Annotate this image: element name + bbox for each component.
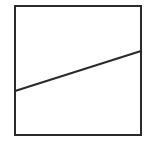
diagonal-line: [15, 51, 141, 91]
diagram: [0, 0, 159, 150]
